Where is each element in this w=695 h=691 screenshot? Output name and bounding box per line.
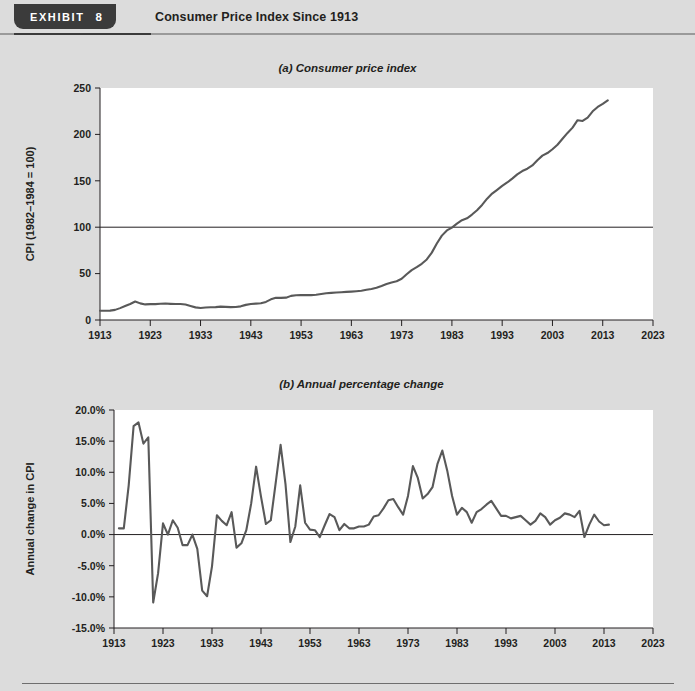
- y-axis-title: CPI (1982–1984 = 100): [24, 146, 36, 261]
- x-axis-tick-label: 2023: [641, 329, 665, 341]
- x-axis-tick-label: 1963: [340, 329, 364, 341]
- x-axis-tick-label: 2013: [591, 329, 615, 341]
- y-axis-tick-label: 0.0%: [81, 528, 106, 540]
- y-axis-tick-label: 50: [79, 267, 91, 279]
- x-axis-tick-label: 1913: [88, 329, 112, 341]
- y-axis-tick-label: 10.0%: [75, 466, 105, 478]
- x-axis-tick-label: 1983: [440, 329, 464, 341]
- exhibit-tab: EXHIBIT 8: [14, 4, 116, 29]
- chart-a-canvas: 0501001502002501913192319331943195319631…: [0, 58, 695, 358]
- header-tab-underline: [14, 33, 151, 35]
- x-axis-tick-label: 1973: [390, 329, 414, 341]
- x-axis-tick-label: 2013: [592, 637, 616, 649]
- exhibit-header: EXHIBIT 8 Consumer Price Index Since 191…: [0, 0, 695, 40]
- y-axis-tick-label: 0: [85, 314, 91, 326]
- x-axis-tick-label: 1933: [200, 637, 224, 649]
- exhibit-label: EXHIBIT: [30, 11, 85, 23]
- x-axis-tick-label: 1973: [396, 637, 420, 649]
- x-axis-tick-label: 2003: [541, 329, 565, 341]
- x-axis-tick-label: 1943: [249, 637, 273, 649]
- chart-b-canvas: -15.0%-10.0%-5.0%0.0%5.0%10.0%15.0%20.0%…: [0, 374, 695, 674]
- chart-annual-percentage-change: (b) Annual percentage change -15.0%-10.0…: [0, 374, 695, 674]
- chart-a-title: (a) Consumer price index: [0, 62, 695, 74]
- y-axis-tick-label: -10.0%: [72, 591, 106, 603]
- y-axis-tick-label: 5.0%: [81, 497, 106, 509]
- page-title: Consumer Price Index Since 1913: [155, 10, 358, 24]
- y-axis-tick-label: 20.0%: [75, 404, 105, 416]
- x-axis-tick-label: 1943: [239, 329, 263, 341]
- chart-consumer-price-index: (a) Consumer price index 050100150200250…: [0, 58, 695, 358]
- y-axis-tick-label: 200: [73, 128, 91, 140]
- chart-b-title: (b) Annual percentage change: [14, 378, 695, 390]
- y-axis-tick-label: -15.0%: [72, 622, 106, 634]
- plot-area: [114, 410, 653, 628]
- x-axis-tick-label: 1923: [151, 637, 175, 649]
- x-axis-tick-label: 1923: [139, 329, 163, 341]
- x-axis-tick-label: 1983: [445, 637, 469, 649]
- exhibit-number: 8: [96, 11, 102, 23]
- x-axis-tick-label: 1953: [289, 329, 313, 341]
- x-axis-tick-label: 1913: [102, 637, 126, 649]
- footer-divider: [22, 683, 674, 684]
- y-axis-tick-label: 15.0%: [75, 435, 105, 447]
- y-axis-tick-label: 250: [73, 82, 91, 94]
- x-axis-tick-label: 1933: [189, 329, 213, 341]
- plot-area: [100, 88, 653, 320]
- y-axis-tick-label: 100: [73, 221, 91, 233]
- x-axis-tick-label: 2003: [543, 637, 567, 649]
- x-axis-tick-label: 2023: [641, 637, 665, 649]
- x-axis-tick-label: 1993: [491, 329, 515, 341]
- x-axis-tick-label: 1953: [298, 637, 322, 649]
- x-axis-tick-label: 1993: [494, 637, 518, 649]
- x-axis-tick-label: 1963: [347, 637, 371, 649]
- exhibit-page: EXHIBIT 8 Consumer Price Index Since 191…: [0, 0, 695, 691]
- y-axis-tick-label: -5.0%: [78, 560, 106, 572]
- y-axis-tick-label: 150: [73, 175, 91, 187]
- y-axis-title: Annual change in CPI: [24, 462, 36, 575]
